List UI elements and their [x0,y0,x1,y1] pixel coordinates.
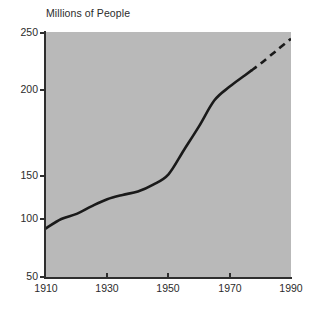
x-tick-label: 1950 [146,283,190,294]
y-tick-label: 50 [26,271,38,282]
x-tick-mark [167,273,169,279]
y-tick-label: 200 [20,84,38,95]
chart-title: Millions of People [46,7,130,20]
y-axis-line [44,31,46,279]
plot-area [46,32,291,278]
x-tick-label: 1990 [269,283,311,294]
y-tick-label: 250 [20,27,38,38]
y-tick-mark [40,175,46,177]
y-tick-mark [40,32,46,34]
population-projected-line [251,39,291,71]
population-actual-line [46,71,251,229]
y-tick-mark [40,89,46,91]
y-tick-label: 150 [20,170,38,181]
population-line-chart: Millions of People 25020015010050 191019… [0,0,311,316]
x-tick-mark [229,273,231,279]
x-tick-label: 1970 [208,283,252,294]
y-tick-mark [40,276,46,278]
x-tick-label: 1930 [85,283,129,294]
y-tick-label: 100 [20,213,38,224]
x-tick-mark [106,273,108,279]
x-tick-label: 1910 [24,283,68,294]
plot-svg [46,32,291,278]
y-tick-mark [40,218,46,220]
